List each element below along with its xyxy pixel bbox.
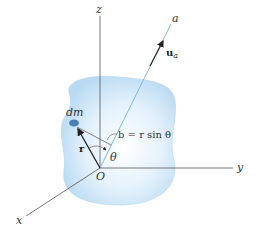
mass-element-dm bbox=[69, 120, 79, 127]
x-axis-label: x bbox=[16, 214, 23, 227]
y-axis-label: y bbox=[236, 161, 244, 174]
origin-label: O bbox=[96, 170, 105, 183]
mass-element-label: dm bbox=[66, 106, 83, 119]
angle-label: θ bbox=[110, 151, 117, 164]
a-axis-label: a bbox=[172, 12, 179, 25]
unit-vector-arrow bbox=[150, 41, 163, 66]
distance-label: b = r sin θ bbox=[118, 129, 171, 140]
rigid-body bbox=[61, 76, 175, 205]
z-axis-label: z bbox=[95, 3, 102, 16]
moment-of-inertia-diagram: z y x a ua dm r θ b = r sin θ O bbox=[0, 0, 261, 230]
position-vector-label: r bbox=[79, 143, 85, 154]
unit-vector-label: ua bbox=[166, 47, 178, 60]
